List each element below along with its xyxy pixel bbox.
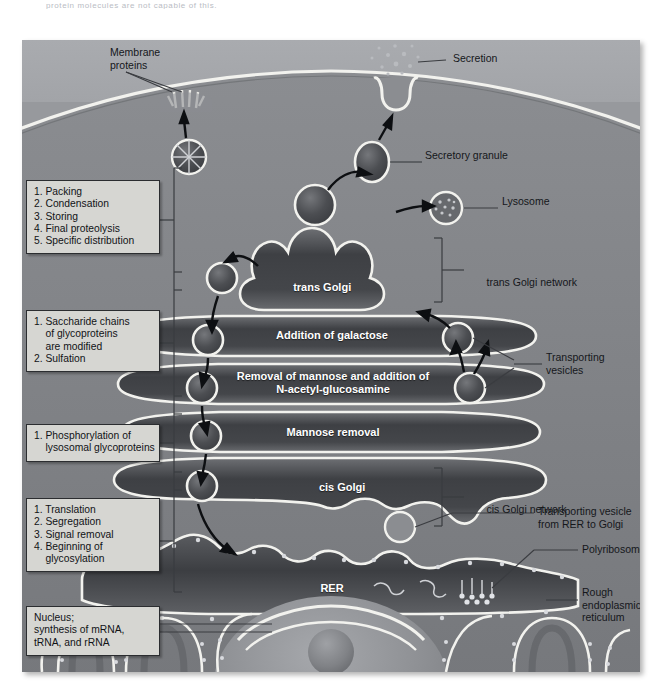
label-trans-golgi-network-italic: trans <box>487 276 510 288</box>
label-secretory-granule: Secretory granule <box>425 149 508 162</box>
label-lysosome: Lysosome <box>502 195 549 208</box>
label-cis-golgi-rest: Golgi <box>334 481 365 493</box>
label-cis-golgi-network-italic: cis <box>487 503 500 515</box>
label-cis-golgi: cis Golgi <box>260 468 406 506</box>
cell-diagram-figure: Membrane proteins Secretion Secretory gr… <box>22 40 640 672</box>
label-rough-er: Rough endoplasmic reticulum <box>582 586 640 624</box>
caption-fragment: protein molecules are not capable of thi… <box>46 0 346 9</box>
nucleus-leader-line <box>152 624 272 632</box>
label-rer: RER <box>292 582 372 595</box>
label-membrane-proteins: Membrane proteins <box>110 46 160 71</box>
callout-rer: 1. Translation 2. Segregation 3. Signal … <box>26 498 160 572</box>
label-trans-golgi-network: trans Golgi network <box>469 263 577 301</box>
label-transporting-vesicle-rer: Transporting vesicle from RER to Golgi <box>538 505 632 530</box>
callout-cis-golgi: 1. Phosphorylation of lysosomal glycopro… <box>26 424 160 462</box>
callout-medial-golgi: 1. Saccharide chains of glycoproteins ar… <box>26 310 160 372</box>
label-cis-golgi-italic: cis <box>319 481 334 493</box>
top-leader-lines <box>126 60 498 208</box>
label-mannose-glcnac: Removal of mannose and addition of N-ace… <box>178 370 488 395</box>
callout-nucleus: Nucleus; synthesis of mRNA, tRNA, and rR… <box>26 606 160 656</box>
figure-canvas: Membrane proteins Secretion Secretory gr… <box>22 40 640 672</box>
label-trans-golgi-network-rest: Golgi network <box>510 276 577 288</box>
label-secretion: Secretion <box>453 52 497 65</box>
callout-trans-golgi: 1. Packing 2. Condensation 3. Storing 4.… <box>26 180 160 254</box>
label-mannose-removal: Mannose removal <box>238 426 428 439</box>
label-trans-golgi-italic: trans <box>293 281 320 293</box>
label-trans-golgi: trans Golgi <box>240 268 386 306</box>
label-addition-galactose: Addition of galactose <box>222 329 442 342</box>
label-polyribosome: Polyribosome <box>582 543 640 556</box>
label-trans-golgi-rest: Golgi <box>320 281 351 293</box>
label-transporting-vesicles: Transporting vesicles <box>546 351 605 376</box>
